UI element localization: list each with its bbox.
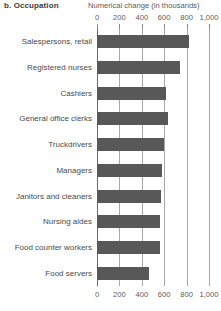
x-tick-label-bottom: 400 [135, 290, 148, 299]
category-label-row: Cashiers [0, 80, 95, 106]
category-label: General office clerks [19, 114, 95, 123]
category-labels: Salespersons, retailRegistered nursesCas… [0, 29, 95, 286]
category-label: Managers [56, 166, 95, 175]
category-label: Registered nurses [27, 63, 95, 72]
x-tick-label-top: 200 [113, 13, 126, 22]
x-tick-label-bottom: 0 [95, 290, 99, 299]
bar [97, 215, 160, 228]
bar [97, 267, 149, 280]
category-label-row: Registered nurses [0, 55, 95, 81]
x-tick-label-bottom: 1,000 [199, 290, 218, 299]
gridline [209, 29, 210, 286]
x-tick-label-top: 600 [158, 13, 171, 22]
x-tick-mark [187, 24, 188, 29]
bar [97, 87, 166, 100]
x-axis-ticklabels-top: 02004006008001,000 [0, 13, 221, 24]
bar [97, 164, 162, 177]
category-label: Truckdrivers [48, 140, 95, 149]
category-label: Food servers [45, 269, 95, 278]
bar-slot [97, 55, 209, 81]
bar-slot [97, 158, 209, 184]
x-tick-mark [209, 24, 210, 29]
bar [97, 61, 180, 74]
x-tick-label-top: 800 [180, 13, 193, 22]
x-tick-label-top: 1,000 [199, 13, 218, 22]
bar-slot [97, 132, 209, 158]
category-label: Food counter workers [15, 243, 95, 252]
x-tick-mark [164, 24, 165, 29]
category-label-row: Food servers [0, 260, 95, 286]
x-tick-label-top: 400 [135, 13, 148, 22]
occupation-bar-chart: b. Occupation Numerical change (in thous… [0, 0, 221, 311]
category-label-row: Food counter workers [0, 235, 95, 261]
x-tick-mark [142, 24, 143, 29]
category-label-row: Managers [0, 158, 95, 184]
category-label: Nursing aides [43, 217, 95, 226]
x-tick-label-bottom: 800 [180, 290, 193, 299]
x-tick-label-top: 0 [95, 13, 99, 22]
x-axis-ticklabels-bottom: 02004006008001,000 [0, 290, 221, 301]
axis-title-top: Numerical change (in thousands) [88, 1, 199, 10]
category-label: Janitors and cleaners [16, 192, 95, 201]
bar-slot [97, 183, 209, 209]
category-label-row: Nursing aides [0, 209, 95, 235]
bar-slot [97, 209, 209, 235]
x-tick-mark [119, 24, 120, 29]
category-label-row: Truckdrivers [0, 132, 95, 158]
bar [97, 112, 168, 125]
plot-area [97, 29, 209, 286]
bar-slot [97, 235, 209, 261]
bar-slot [97, 80, 209, 106]
category-label-row: Salespersons, retail [0, 29, 95, 55]
bar-slot [97, 29, 209, 55]
panel-label: b. Occupation [4, 1, 59, 10]
bar-slot [97, 260, 209, 286]
bar [97, 190, 161, 203]
category-label: Salespersons, retail [22, 37, 95, 46]
category-label-row: Janitors and cleaners [0, 183, 95, 209]
x-tick-mark [97, 24, 98, 29]
x-tick-label-bottom: 600 [158, 290, 171, 299]
bar-slot [97, 106, 209, 132]
category-label: Cashiers [60, 89, 95, 98]
category-label-row: General office clerks [0, 106, 95, 132]
bar [97, 138, 164, 151]
bar [97, 35, 189, 48]
bar [97, 241, 160, 254]
x-tick-label-bottom: 200 [113, 290, 126, 299]
